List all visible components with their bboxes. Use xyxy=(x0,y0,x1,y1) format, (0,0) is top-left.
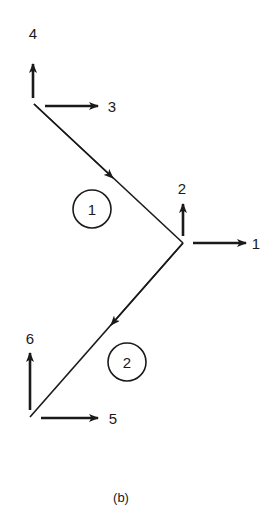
element-2-label: 2 xyxy=(123,354,131,371)
element-2-direction-arrow-icon xyxy=(111,243,183,325)
element-1-direction-arrow-icon xyxy=(34,104,113,178)
dof-4-label: 4 xyxy=(29,25,37,42)
element-1-label: 1 xyxy=(88,201,96,218)
node-top: 4 3 xyxy=(29,25,116,115)
truss-diagram: 1 2 4 3 2 1 6 5 (b) xyxy=(0,0,275,518)
dof-6-label: 6 xyxy=(26,330,34,347)
node-bottom: 6 5 xyxy=(26,330,117,427)
dof-1-label: 1 xyxy=(252,235,260,252)
figure-caption: (b) xyxy=(113,490,129,505)
element-1: 1 xyxy=(34,104,183,243)
element-2: 2 xyxy=(30,243,183,417)
dof-5-label: 5 xyxy=(109,410,117,427)
dof-2-label: 2 xyxy=(178,180,186,197)
dof-3-label: 3 xyxy=(108,98,116,115)
node-middle: 2 1 xyxy=(178,180,260,252)
